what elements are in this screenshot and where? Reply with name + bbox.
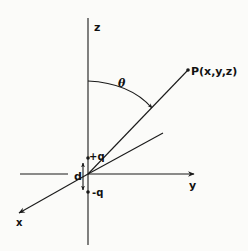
theta-label: θ (118, 77, 126, 90)
dipole-coordinate-diagram: z y x P(x,y,z) θ +q -q d (0, 0, 248, 251)
negative-charge-dot (86, 190, 90, 194)
y-axis-label: y (189, 179, 196, 192)
positive-charge-label: +q (89, 151, 105, 162)
point-p-dot (186, 68, 190, 72)
negative-charge-label: -q (92, 187, 103, 198)
x-axis-label: x (16, 217, 23, 228)
point-p-label: P(x,y,z) (191, 65, 237, 78)
separation-label: d (74, 170, 82, 183)
z-axis-label: z (94, 21, 100, 34)
